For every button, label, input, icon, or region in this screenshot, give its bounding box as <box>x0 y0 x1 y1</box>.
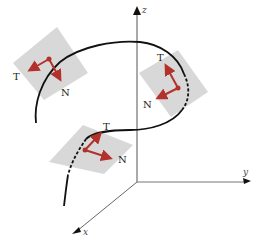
tangent-label: T <box>103 121 110 132</box>
normal-label: N <box>118 154 127 165</box>
x-axis-arrowhead <box>72 227 81 234</box>
normal-label: N <box>143 99 152 110</box>
tangent-label: T <box>13 71 20 82</box>
helix-frenet-diagram: z y x T N T N T N <box>0 0 265 248</box>
normal-label: N <box>61 87 70 98</box>
plane-lower-center <box>49 125 133 174</box>
coordinate-axes: z y x <box>72 5 251 237</box>
x-axis-label: x <box>83 227 88 237</box>
osculating-planes <box>13 27 208 174</box>
z-axis-label: z <box>141 5 147 15</box>
x-axis <box>77 182 137 231</box>
tangent-label: T <box>157 52 164 63</box>
y-axis-label: y <box>242 167 249 177</box>
y-axis-arrowhead <box>243 178 251 184</box>
z-axis-arrowhead <box>133 6 141 15</box>
